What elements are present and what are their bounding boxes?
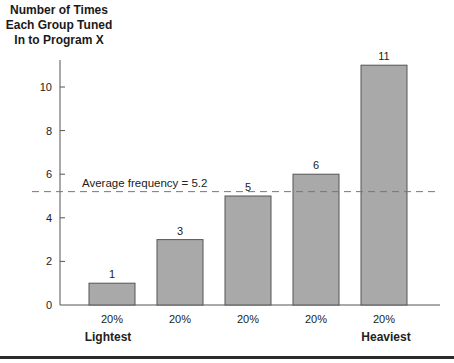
y-tick-label: 10 [40, 81, 52, 93]
bar [361, 65, 407, 305]
category-label: 20% [305, 313, 327, 325]
category-label: 20% [169, 313, 191, 325]
bar-value-label: 1 [109, 268, 115, 280]
category-labels: 20%20%20%20%20%LightestHeaviest [85, 313, 411, 344]
bar-value-label: 3 [177, 225, 183, 237]
y-tick-label: 8 [46, 125, 52, 137]
bar [225, 196, 271, 305]
y-tick-label: 6 [46, 168, 52, 180]
category-label: 20% [237, 313, 259, 325]
lightest-label: Lightest [85, 330, 132, 344]
bar [293, 174, 339, 305]
heaviest-label: Heaviest [361, 330, 410, 344]
bottom-rule-divider [0, 356, 454, 359]
category-label: 20% [373, 313, 395, 325]
average-label: Average frequency = 5.2 [82, 177, 207, 189]
y-tick-label: 2 [46, 255, 52, 267]
bar [89, 283, 135, 305]
bar-chart: 0246810 135611 Average frequency = 5.2 2… [0, 0, 454, 363]
category-label: 20% [101, 313, 123, 325]
bar-value-label: 6 [313, 159, 319, 171]
y-tick-label: 4 [46, 212, 52, 224]
bar-value-label: 11 [378, 50, 389, 62]
y-tick-label: 0 [46, 299, 52, 311]
bar [157, 240, 203, 305]
